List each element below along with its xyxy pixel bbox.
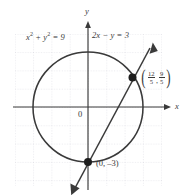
y-axis-label: y [85, 7, 89, 16]
intersection-point-label: ( 12 5 , 9 5 ) [140, 69, 172, 86]
point-marker-lower [84, 158, 92, 166]
x-fraction: 12 5 [148, 70, 156, 86]
circle-eq-end: = 9 [50, 32, 65, 42]
y-numerator: 9 [160, 70, 164, 77]
circle-equation-label: x2 + y2 = 9 [26, 31, 65, 41]
y-intercept-label: (0, –3) [96, 159, 119, 168]
x-axis-label: x [175, 102, 179, 111]
close-paren: ) [167, 69, 171, 86]
open-paren: ( [141, 69, 145, 86]
x-numerator: 12 [148, 70, 156, 77]
x-denominator: 5 [149, 78, 153, 85]
point-marker-upper [129, 74, 137, 82]
y-fraction: 9 5 [159, 70, 165, 86]
line-equation-label: 2x − y = 3 [92, 31, 129, 40]
math-graph-figure: x2 + y2 = 9 2x − y = 3 y x 0 ( 12 5 , 9 … [0, 0, 188, 195]
origin-label: 0 [78, 110, 82, 119]
y-denominator: 5 [160, 78, 164, 85]
circle-eq-mid: + y [33, 32, 47, 42]
coord-separator: , [156, 77, 158, 86]
